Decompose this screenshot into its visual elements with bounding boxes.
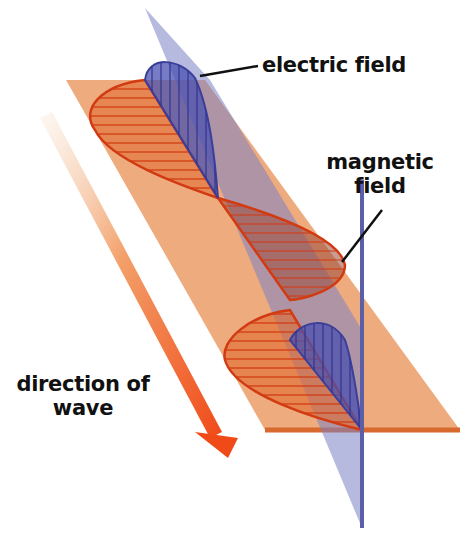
electric-field-label: electric field: [262, 53, 406, 77]
direction-label-line2: wave: [8, 396, 158, 420]
magnetic-field-label: magnetic field: [325, 150, 435, 198]
direction-arrow-head: [195, 432, 238, 458]
magnetic-field-label-line1: magnetic: [325, 150, 435, 174]
electric-field-leader-line: [200, 66, 258, 76]
direction-of-wave-label: direction of wave: [8, 372, 158, 420]
direction-label-line1: direction of: [8, 372, 158, 396]
magnetic-field-label-line2: field: [325, 174, 435, 198]
em-wave-diagram: [0, 0, 467, 539]
